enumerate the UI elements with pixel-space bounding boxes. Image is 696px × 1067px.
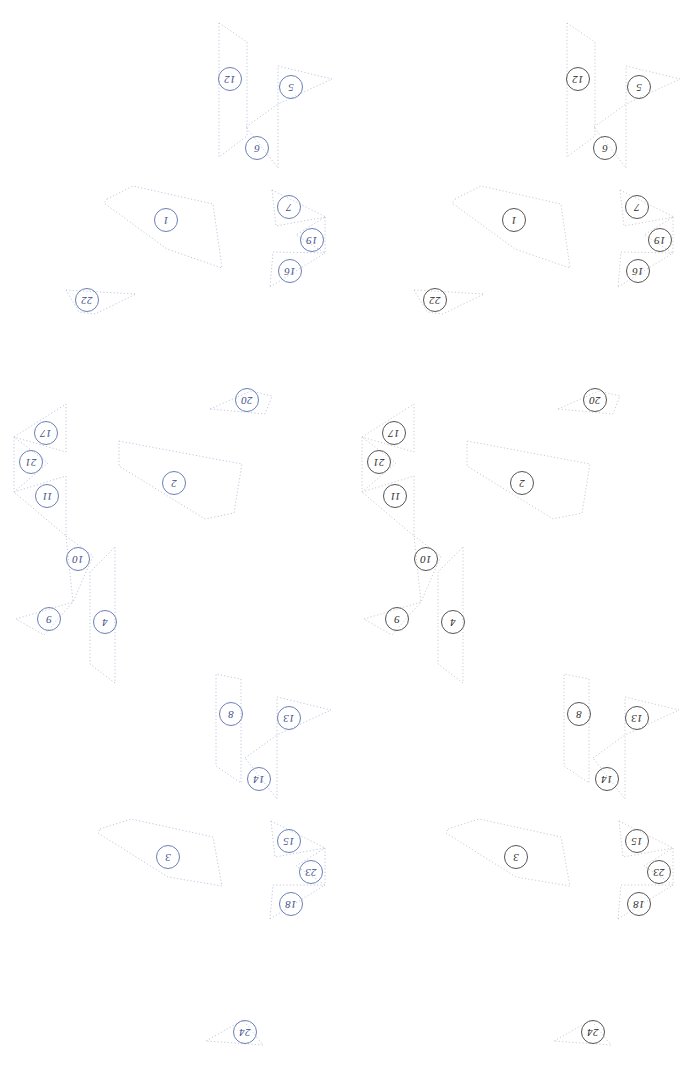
- piece-label-text: 16: [284, 266, 295, 277]
- piece-label-5: 5: [279, 75, 303, 99]
- piece-label-16: 16: [278, 259, 302, 283]
- piece-label-text: 2: [171, 478, 177, 489]
- piece-label-9: 9: [37, 607, 61, 631]
- piece-label-20: 20: [235, 388, 259, 412]
- piece-label-12: 12: [566, 67, 590, 91]
- piece-label-21: 21: [367, 450, 391, 474]
- piece-outline-8: [564, 674, 589, 783]
- piece-label-text: 24: [587, 1027, 598, 1038]
- piece-label-text: 22: [429, 295, 440, 306]
- piece-label-text: 12: [224, 74, 235, 85]
- piece-label-11: 11: [383, 484, 407, 508]
- piece-label-13: 13: [625, 706, 649, 730]
- piece-label-text: 3: [513, 852, 519, 863]
- piece-label-14: 14: [247, 767, 271, 791]
- piece-label-text: 19: [654, 235, 665, 246]
- piece-label-text: 17: [388, 428, 399, 439]
- piece-label-text: 13: [283, 713, 294, 724]
- piece-label-text: 14: [253, 774, 264, 785]
- piece-label-text: 22: [81, 295, 92, 306]
- piece-label-text: 2: [519, 478, 525, 489]
- piece-label-text: 13: [631, 713, 642, 724]
- piece-label-18: 18: [279, 892, 303, 916]
- piece-label-text: 7: [634, 202, 640, 213]
- piece-label-text: 9: [394, 614, 400, 625]
- piece-label-text: 17: [40, 428, 51, 439]
- piece-label-2: 2: [510, 471, 534, 495]
- piece-label-text: 1: [511, 215, 517, 226]
- piece-label-3: 3: [156, 845, 180, 869]
- piece-label-2: 2: [162, 471, 186, 495]
- piece-label-7: 7: [625, 195, 649, 219]
- piece-outline-8: [216, 674, 241, 783]
- piece-label-9: 9: [385, 607, 409, 631]
- piece-label-17: 17: [382, 421, 406, 445]
- piece-label-text: 23: [653, 867, 664, 878]
- piece-label-text: 8: [576, 709, 582, 720]
- piece-label-text: 24: [239, 1027, 250, 1038]
- piece-label-12: 12: [218, 67, 242, 91]
- piece-label-text: 4: [102, 617, 108, 628]
- piece-label-7: 7: [277, 195, 301, 219]
- piece-label-15: 15: [277, 829, 301, 853]
- piece-label-14: 14: [595, 767, 619, 791]
- piece-label-4: 4: [93, 610, 117, 634]
- piece-label-text: 6: [602, 143, 608, 154]
- piece-label-24: 24: [581, 1020, 605, 1044]
- piece-label-3: 3: [504, 845, 528, 869]
- piece-label-text: 19: [306, 235, 317, 246]
- piece-label-text: 18: [633, 899, 644, 910]
- piece-label-text: 23: [305, 867, 316, 878]
- piece-label-1: 1: [502, 208, 526, 232]
- piece-label-24: 24: [233, 1020, 257, 1044]
- piece-label-6: 6: [593, 136, 617, 160]
- piece-label-text: 20: [589, 395, 600, 406]
- piece-label-text: 15: [283, 836, 294, 847]
- piece-label-23: 23: [299, 860, 323, 884]
- piece-label-10: 10: [414, 547, 438, 571]
- piece-label-text: 15: [631, 836, 642, 847]
- piece-label-22: 22: [423, 288, 447, 312]
- piece-label-text: 10: [72, 554, 83, 565]
- piece-label-text: 5: [288, 82, 294, 93]
- piece-label-17: 17: [34, 421, 58, 445]
- piece-label-text: 1: [163, 215, 169, 226]
- piece-label-text: 8: [228, 709, 234, 720]
- piece-label-20: 20: [583, 388, 607, 412]
- piece-label-18: 18: [627, 892, 651, 916]
- piece-label-1: 1: [154, 208, 178, 232]
- right-panel: 123456789101112131415161718192021222324: [348, 0, 696, 1067]
- piece-label-text: 18: [285, 899, 296, 910]
- piece-label-8: 8: [219, 702, 243, 726]
- piece-label-21: 21: [19, 450, 43, 474]
- piece-label-text: 14: [601, 774, 612, 785]
- piece-label-19: 19: [300, 228, 324, 252]
- piece-label-text: 3: [165, 852, 171, 863]
- piece-label-8: 8: [567, 702, 591, 726]
- piece-label-11: 11: [35, 484, 59, 508]
- piece-label-text: 20: [241, 395, 252, 406]
- piece-label-22: 22: [75, 288, 99, 312]
- piece-label-text: 11: [42, 491, 53, 502]
- piece-label-19: 19: [648, 228, 672, 252]
- piece-label-4: 4: [441, 610, 465, 634]
- piece-label-text: 9: [46, 614, 52, 625]
- piece-label-15: 15: [625, 829, 649, 853]
- piece-label-text: 11: [390, 491, 401, 502]
- left-panel: 123456789101112131415161718192021222324: [0, 0, 348, 1067]
- piece-label-text: 12: [572, 74, 583, 85]
- piece-label-5: 5: [627, 75, 651, 99]
- piece-label-text: 5: [636, 82, 642, 93]
- piece-label-13: 13: [277, 706, 301, 730]
- piece-label-6: 6: [245, 136, 269, 160]
- piece-label-10: 10: [66, 547, 90, 571]
- piece-label-text: 4: [450, 617, 456, 628]
- piece-label-text: 21: [373, 457, 384, 468]
- piece-label-text: 10: [420, 554, 431, 565]
- unfold-pattern-canvas: 1234567891011121314151617181920212223241…: [0, 0, 696, 1067]
- piece-label-text: 6: [254, 143, 260, 154]
- piece-label-text: 16: [632, 266, 643, 277]
- piece-label-text: 7: [286, 202, 292, 213]
- piece-label-16: 16: [626, 259, 650, 283]
- piece-label-23: 23: [647, 860, 671, 884]
